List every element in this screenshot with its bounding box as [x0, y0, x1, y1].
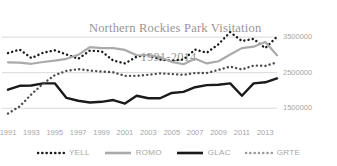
x-tick-label: 1991: [0, 128, 16, 137]
series-glac: [8, 78, 277, 103]
y-tick-label: 3500000: [283, 32, 312, 41]
x-axis-tick-labels: 1991199319951997199920012003200520072009…: [0, 128, 337, 140]
y-tick-label: 1500000: [283, 103, 312, 112]
x-tick-label: 1995: [46, 128, 63, 137]
plot-area: [0, 0, 337, 166]
chart-container: Northern Rockies Park Visitation 1991-20…: [0, 0, 337, 166]
chart-legend: YELLROMOGLACGRTE: [0, 148, 337, 157]
x-tick-label: 2005: [163, 128, 180, 137]
series-grte: [8, 62, 277, 113]
legend-item-grte[interactable]: GRTE: [245, 148, 300, 157]
legend-label: GLAC: [208, 148, 231, 157]
x-tick-label: 2003: [140, 128, 157, 137]
legend-swatch-grte-icon: [245, 148, 273, 157]
y-tick-label: 2500000: [283, 68, 312, 77]
x-tick-label: 2009: [210, 128, 227, 137]
x-tick-label: 1999: [93, 128, 110, 137]
x-tick-label: 1997: [70, 128, 87, 137]
x-tick-label: 2011: [234, 128, 250, 137]
series-romo: [8, 42, 277, 64]
legend-label: YELL: [69, 148, 90, 157]
x-tick-label: 1993: [23, 128, 40, 137]
legend-swatch-yell-icon: [37, 148, 65, 157]
x-tick-label: 2001: [117, 128, 134, 137]
legend-label: ROMO: [136, 148, 162, 157]
legend-item-yell[interactable]: YELL: [37, 148, 90, 157]
legend-swatch-glac-icon: [176, 148, 204, 157]
legend-swatch-romo-icon: [104, 148, 132, 157]
x-tick-label: 2007: [187, 128, 204, 137]
legend-item-glac[interactable]: GLAC: [176, 148, 231, 157]
legend-item-romo[interactable]: ROMO: [104, 148, 162, 157]
x-tick-label: 2013: [257, 128, 274, 137]
legend-label: GRTE: [277, 148, 300, 157]
